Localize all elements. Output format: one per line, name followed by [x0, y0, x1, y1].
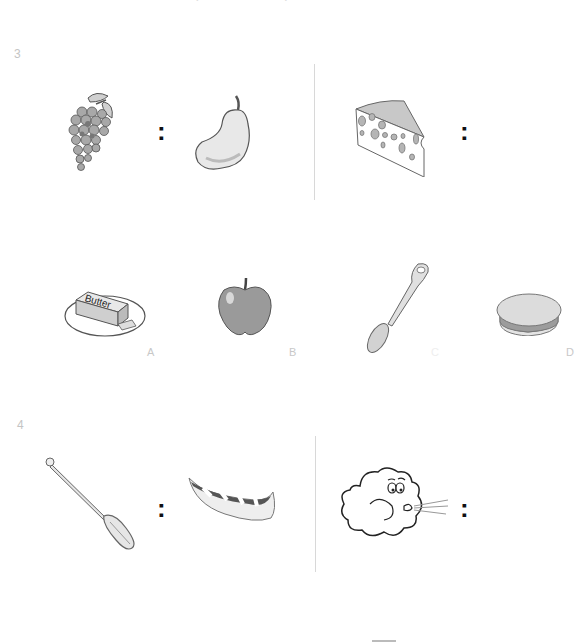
canoe-icon	[185, 474, 277, 526]
option-label-c: C	[431, 346, 439, 358]
option-spoon[interactable]	[358, 258, 434, 354]
section-divider	[314, 64, 315, 200]
option-label-d: D	[566, 346, 574, 358]
option-label-a: A	[147, 346, 154, 358]
option-pie[interactable]	[494, 290, 564, 336]
pear-icon	[192, 92, 252, 172]
option-label-b: B	[289, 346, 296, 358]
grapes-icon	[62, 90, 118, 174]
analogy-separator: :	[157, 118, 166, 144]
section-divider	[315, 436, 316, 572]
option-apple[interactable]	[216, 274, 274, 338]
cheese-icon	[352, 95, 428, 177]
question-number: 4	[17, 418, 24, 432]
analogy-separator-right: :	[460, 118, 469, 144]
analogy-separator-right: :	[460, 495, 469, 521]
option-butter[interactable]: Butter	[62, 286, 148, 340]
top-cutoff-text: · ·	[195, 0, 328, 7]
analogy-separator: :	[157, 495, 166, 521]
paddle-icon	[44, 456, 140, 552]
bottom-cutoff-figure	[372, 640, 396, 642]
question-number: 3	[14, 47, 21, 61]
wind-cloud-icon	[340, 466, 450, 542]
